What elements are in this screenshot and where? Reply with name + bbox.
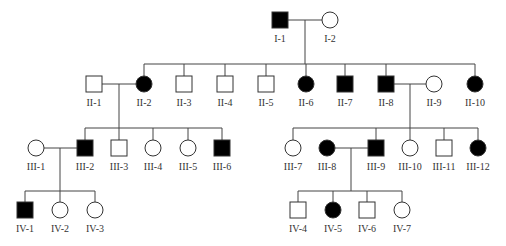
individual-label: II-2 [137,97,152,108]
individual-label: IV-7 [393,223,411,234]
individual-iii-5: III-5 [179,140,197,172]
individual-label: III-2 [76,161,94,172]
male-square-icon [86,76,102,92]
individual-label: III-11 [433,161,456,172]
individual-label: IV-2 [51,223,69,234]
female-circle-icon [394,202,410,218]
individual-label: II-4 [218,97,233,108]
female-circle-icon [285,140,301,156]
individual-iii-6: III-6 [213,140,231,172]
individual-label: IV-5 [324,223,342,234]
female-circle-icon [180,140,196,156]
female-circle-icon [145,140,161,156]
female-circle-icon [402,140,418,156]
female-circle-icon [298,76,314,92]
individual-i-2: I-2 [322,12,338,44]
individual-iv-6: IV-6 [358,202,376,234]
female-circle-icon [87,202,103,218]
female-circle-icon [52,202,68,218]
individual-label: III-9 [367,161,385,172]
female-circle-icon [319,140,335,156]
female-circle-icon [322,12,338,28]
individual-iii-2: III-2 [76,140,94,172]
individual-iii-1: III-1 [27,140,45,172]
individual-label: III-6 [213,161,231,172]
individual-label: II-8 [379,97,394,108]
male-square-icon [337,76,353,92]
individual-label: III-3 [110,161,128,172]
individual-label: I-1 [274,33,286,44]
individual-iv-2: IV-2 [51,202,69,234]
individual-i-1: I-1 [272,12,288,44]
individual-label: II-3 [177,97,192,108]
individual-label: I-2 [324,33,336,44]
female-circle-icon [467,76,483,92]
male-square-icon [17,202,33,218]
male-square-icon [217,76,233,92]
individual-iii-8: III-8 [318,140,336,172]
individual-ii-9: II-9 [426,76,442,108]
individual-label: III-7 [284,161,302,172]
individual-label: II-1 [87,97,102,108]
individual-ii-5: II-5 [258,76,274,108]
male-square-icon [368,140,384,156]
individual-label: II-6 [299,97,314,108]
male-square-icon [258,76,274,92]
male-square-icon [111,140,127,156]
individual-iii-3: III-3 [110,140,128,172]
male-square-icon [436,140,452,156]
individual-ii-7: II-7 [337,76,353,108]
individual-iii-7: III-7 [284,140,302,172]
individual-label: III-1 [27,161,45,172]
female-circle-icon [325,202,341,218]
individual-iv-7: IV-7 [393,202,411,234]
individual-label: III-5 [179,161,197,172]
male-square-icon [214,140,230,156]
individual-label: III-10 [398,161,421,172]
individual-label: III-4 [144,161,162,172]
individual-label: IV-1 [16,223,34,234]
female-circle-icon [28,140,44,156]
individual-iii-10: III-10 [398,140,421,172]
individual-iii-4: III-4 [144,140,162,172]
individual-label: III-8 [318,161,336,172]
individual-ii-10: II-10 [465,76,485,108]
male-square-icon [77,140,93,156]
individual-ii-4: II-4 [217,76,233,108]
female-circle-icon [426,76,442,92]
individual-ii-8: II-8 [378,76,394,108]
individual-label: IV-4 [289,223,307,234]
individual-iii-12: III-12 [466,140,489,172]
individual-iii-11: III-11 [433,140,456,172]
male-square-icon [176,76,192,92]
individual-label: III-12 [466,161,489,172]
individual-iii-9: III-9 [367,140,385,172]
individual-label: II-7 [338,97,353,108]
individual-iv-4: IV-4 [289,202,307,234]
individual-iv-1: IV-1 [16,202,34,234]
individual-iv-3: IV-3 [86,202,104,234]
individual-ii-6: II-6 [298,76,314,108]
male-square-icon [378,76,394,92]
individual-ii-3: II-3 [176,76,192,108]
individual-label: II-9 [427,97,442,108]
individual-label: IV-3 [86,223,104,234]
pedigree-svg: I-1I-2II-1II-2II-3II-4II-5II-6II-7II-8II… [0,0,506,246]
male-square-icon [359,202,375,218]
female-circle-icon [136,76,152,92]
female-circle-icon [470,140,486,156]
individual-ii-2: II-2 [136,76,152,108]
individual-label: IV-6 [358,223,376,234]
pedigree-chart: I-1I-2II-1II-2II-3II-4II-5II-6II-7II-8II… [0,0,506,246]
individual-label: II-5 [259,97,274,108]
male-square-icon [272,12,288,28]
individual-iv-5: IV-5 [324,202,342,234]
individual-ii-1: II-1 [86,76,102,108]
individual-label: II-10 [465,97,485,108]
male-square-icon [290,202,306,218]
